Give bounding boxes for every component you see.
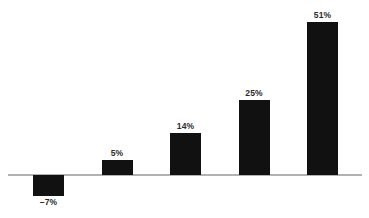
- bar-group[interactable]: 51%: [307, 0, 338, 204]
- bar[interactable]: [239, 100, 270, 175]
- bar-group[interactable]: 25%: [239, 0, 270, 204]
- bar-value-label: 51%: [293, 10, 352, 20]
- bar-group[interactable]: 5%: [102, 0, 133, 204]
- footer-ghost-text: [0, 206, 369, 218]
- bar-value-label: 14%: [156, 121, 215, 131]
- bar-group[interactable]: –7%: [33, 0, 64, 204]
- bar-chart: –7%5%14%25%51%: [0, 0, 369, 218]
- bar[interactable]: [102, 160, 133, 175]
- bar-value-label: 5%: [88, 148, 147, 158]
- bar[interactable]: [307, 22, 338, 175]
- bar[interactable]: [33, 175, 64, 196]
- bar-group[interactable]: 14%: [170, 0, 201, 204]
- bar[interactable]: [170, 133, 201, 175]
- bar-value-label: 25%: [225, 88, 284, 98]
- plot-area: –7%5%14%25%51%: [0, 0, 369, 204]
